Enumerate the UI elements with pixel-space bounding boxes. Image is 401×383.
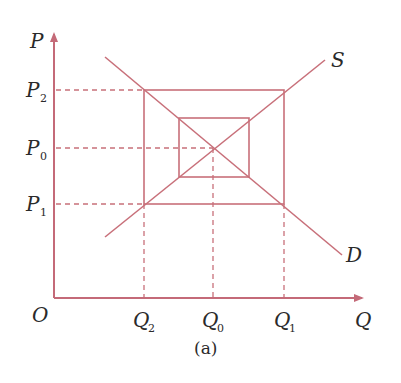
quantity-guides xyxy=(144,148,284,297)
svg-text:0: 0 xyxy=(217,322,224,335)
quantity-tick-q0: Q 0 xyxy=(202,308,224,335)
figure-caption: (a) xyxy=(194,338,217,358)
svg-text:0: 0 xyxy=(40,150,47,163)
price-tick-p2: P 2 xyxy=(25,78,47,105)
x-axis-label: Q xyxy=(355,308,371,332)
svg-text:1: 1 xyxy=(289,322,296,335)
price-tick-p0: P 0 xyxy=(25,136,47,163)
demand-curve xyxy=(105,57,342,255)
svg-text:Q: Q xyxy=(274,308,290,332)
quantity-tick-q1: Q 1 xyxy=(274,308,296,335)
y-axis-label: P xyxy=(29,29,44,53)
svg-text:2: 2 xyxy=(148,322,155,335)
price-guides xyxy=(56,90,213,204)
quantity-tick-q2: Q 2 xyxy=(133,308,155,335)
supply-label: S xyxy=(331,48,345,72)
origin-label: O xyxy=(32,303,48,327)
svg-text:Q: Q xyxy=(133,308,149,332)
cobweb-diagram: P Q O S D P 2 P 0 P 1 Q 2 Q 0 Q 1 (a) xyxy=(0,0,401,383)
svg-text:P: P xyxy=(25,136,40,160)
price-tick-p1: P 1 xyxy=(25,192,47,219)
svg-text:P: P xyxy=(25,192,40,216)
svg-text:1: 1 xyxy=(40,206,47,219)
svg-text:P: P xyxy=(25,78,40,102)
demand-label: D xyxy=(345,243,362,267)
svg-text:Q: Q xyxy=(202,308,218,332)
svg-text:2: 2 xyxy=(40,92,47,105)
